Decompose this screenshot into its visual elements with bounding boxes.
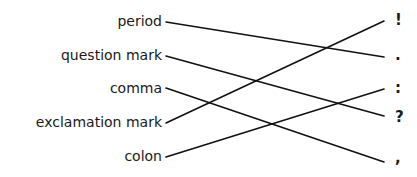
- line-period-to-period: [166, 22, 384, 57]
- connector-lines: [0, 0, 417, 177]
